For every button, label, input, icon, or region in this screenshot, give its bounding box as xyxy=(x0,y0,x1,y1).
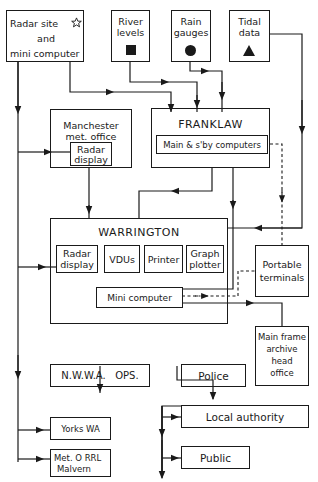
circle-icon xyxy=(185,45,196,56)
manchester-met-office-node: Manchester met. office Radar display xyxy=(50,109,132,168)
manchester-radar-label-2: display xyxy=(71,154,111,165)
radar-site-label-1: Radar site xyxy=(10,18,58,29)
local-authority-label: Local authority xyxy=(206,411,284,423)
police-label: Police xyxy=(198,370,228,382)
warrington-title: WARRINGTON xyxy=(51,227,227,238)
river-levels-node: River levels xyxy=(111,10,150,62)
rain-gauges-label-2: gauges xyxy=(172,27,210,38)
local-authority-node: Local authority xyxy=(181,405,309,428)
portable-terminals-label-2: terminals xyxy=(256,272,308,283)
printer-box: Printer xyxy=(144,245,183,273)
radar-site-node: Radar site and mini computer xyxy=(6,10,84,62)
tidal-data-label-2: data xyxy=(230,27,269,38)
river-levels-label-1: River xyxy=(112,16,149,27)
main-frame-node: Main frame archive head office xyxy=(255,326,309,386)
public-node: Public xyxy=(181,446,250,469)
warrington-radar-label-1: Radar xyxy=(57,248,97,259)
public-label: Public xyxy=(200,452,231,464)
rain-gauges-label-1: Rain xyxy=(172,16,210,27)
graph-plotter-label-1: Graph xyxy=(187,248,223,259)
main-sby-computers: Main & s'by computers xyxy=(156,135,268,154)
warrington-node: WARRINGTON Radar display VDUs Printer Gr… xyxy=(50,218,228,324)
main-frame-label-2: archive xyxy=(256,344,308,355)
graph-plotter-box: Graph plotter xyxy=(186,245,224,273)
graph-plotter-label-2: plotter xyxy=(187,259,223,270)
main-frame-label-4: office xyxy=(256,368,308,379)
tidal-data-node: Tidal data xyxy=(229,10,270,62)
nwwa-ops-node: N.W.W.A. OPS. xyxy=(50,364,150,387)
vdus-label: VDUs xyxy=(109,254,135,265)
main-frame-label-3: head xyxy=(256,356,308,367)
mini-computer-box: Mini computer xyxy=(96,287,183,308)
met-o-rrl-node: Met. O RRL Malvern xyxy=(50,449,111,477)
mini-computer-label: Mini computer xyxy=(107,293,172,303)
main-sby-computers-label: Main & s'by computers xyxy=(163,140,261,150)
warrington-radar-label-2: display xyxy=(57,259,97,270)
star-icon xyxy=(71,17,82,28)
main-frame-label-1: Main frame xyxy=(256,332,308,343)
portable-terminals-node: Portable terminals xyxy=(255,245,309,297)
met-o-label-2: Malvern xyxy=(57,464,91,475)
franklaw-title: FRANKLAW xyxy=(152,119,269,130)
vdus-box: VDUs xyxy=(104,245,140,273)
radar-site-label-2: and xyxy=(7,33,85,44)
square-icon xyxy=(126,45,136,55)
warrington-radar-display: Radar display xyxy=(56,245,98,273)
police-node: Police xyxy=(181,364,246,387)
nwwa-ops-label: N.W.W.A. OPS. xyxy=(61,370,138,381)
tidal-data-label-1: Tidal xyxy=(230,16,269,27)
portable-terminals-label-1: Portable xyxy=(256,259,308,270)
met-o-label-1: Met. O RRL xyxy=(54,453,101,464)
yorks-wa-node: Yorks WA xyxy=(50,417,111,440)
printer-label: Printer xyxy=(148,254,180,265)
manchester-radar-display: Radar display xyxy=(70,142,112,166)
triangle-icon xyxy=(243,45,255,56)
river-levels-label-2: levels xyxy=(112,27,149,38)
manchester-label-1: Manchester xyxy=(51,120,131,131)
franklaw-node: FRANKLAW Main & s'by computers xyxy=(151,108,270,168)
rain-gauges-node: Rain gauges xyxy=(171,10,211,62)
radar-site-label-3: mini computer xyxy=(10,48,79,59)
yorks-wa-label: Yorks WA xyxy=(61,424,100,434)
manchester-label-2: met. office xyxy=(51,131,131,142)
